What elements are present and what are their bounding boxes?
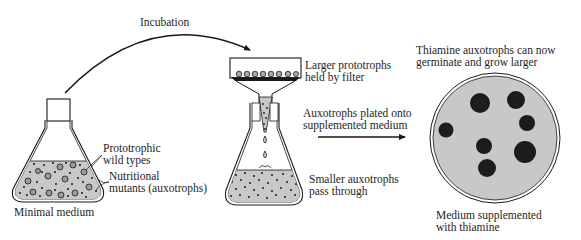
label-incubation: Incubation (140, 16, 189, 28)
label-thiamine-auxotrophs: Thiamine auxotrophs can now germinate an… (416, 44, 556, 68)
label-nutritional-line2: mutants (auxotrophs) (109, 182, 207, 194)
label-larger-prototrophs: Larger prototrophs held by filter (305, 59, 391, 83)
label-plated-line2: supplemented medium (303, 119, 412, 131)
label-supplemented-line1: Medium supplemented (436, 209, 542, 221)
label-smaller-auxotrophs: Smaller auxotrophs pass through (309, 173, 399, 197)
label-supplemented-line2: with thiamine (436, 221, 542, 233)
label-larger-line2: held by filter (305, 71, 391, 83)
filter-funnel (230, 58, 301, 132)
incubation-arrow (65, 35, 250, 93)
label-minimal-medium: Minimal medium (14, 206, 94, 218)
label-thiamine-line1: Thiamine auxotrophs can now (416, 44, 556, 56)
label-plated-line1: Auxotrophs plated onto (303, 107, 412, 119)
label-prototrophic-wild-types: Prototrophic wild types (103, 142, 161, 166)
label-nutritional-line1: Nutritional (109, 170, 207, 182)
label-nutritional-mutants: Nutritional mutants (auxotrophs) (109, 170, 207, 194)
label-auxotrophs-plated: Auxotrophs plated onto supplemented medi… (303, 107, 412, 131)
minimal-medium-flask (10, 99, 110, 206)
label-smaller-line1: Smaller auxotrophs (309, 173, 399, 185)
flask-cap (47, 99, 70, 121)
diagram-canvas (0, 0, 581, 240)
label-smaller-line2: pass through (309, 185, 399, 197)
label-larger-line1: Larger prototrophs (305, 59, 391, 71)
label-prototrophic-line1: Prototrophic (103, 142, 161, 154)
label-prototrophic-line2: wild types (103, 154, 161, 166)
label-thiamine-line2: germinate and grow larger (416, 56, 556, 68)
petri-dish (430, 73, 560, 203)
filtrate-drops (264, 136, 267, 158)
label-medium-supplemented: Medium supplemented with thiamine (436, 209, 542, 233)
